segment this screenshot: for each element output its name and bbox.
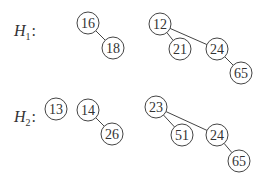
- node-key: 51: [175, 128, 189, 143]
- heap-label: H1:: [13, 22, 36, 42]
- heap-node: 51: [171, 124, 193, 146]
- node-key: 13: [49, 102, 63, 117]
- tree-edge: [225, 57, 233, 65]
- tree-edge: [96, 31, 105, 40]
- heap-node: 24: [206, 38, 228, 60]
- node-key: 14: [81, 103, 95, 118]
- node-key: 65: [234, 66, 248, 81]
- node-key: 21: [173, 42, 187, 57]
- heap-colon: :: [32, 108, 36, 125]
- heap-node: 24: [206, 124, 228, 146]
- heap-node: 18: [102, 37, 124, 59]
- heap-1: H1:161812212465: [13, 12, 252, 84]
- node-key: 16: [81, 16, 95, 31]
- heap-2: H2:13142623512465: [13, 96, 250, 172]
- heap-node: 26: [101, 123, 123, 145]
- node-key: 65: [232, 154, 246, 169]
- tree-edge: [163, 115, 174, 127]
- node-key: 26: [105, 127, 119, 142]
- node-key: 24: [210, 128, 224, 143]
- heap-node: 21: [169, 38, 191, 60]
- binomial-heaps-diagram: H1:161812212465H2:13142623512465: [0, 0, 274, 180]
- node-key: 12: [153, 17, 167, 32]
- node-key: 23: [149, 100, 163, 115]
- node-key: 24: [210, 42, 224, 57]
- heap-node: 14: [77, 99, 99, 121]
- heap-node: 16: [77, 12, 99, 34]
- heap-node: 23: [145, 96, 167, 118]
- heap-subscript: 2: [26, 117, 31, 128]
- heap-colon: :: [32, 22, 36, 39]
- tree-edge: [96, 118, 104, 126]
- heap-node: 13: [45, 98, 67, 120]
- heap-label: H2:: [13, 108, 36, 128]
- node-key: 18: [106, 41, 120, 56]
- heap-subscript: 1: [26, 31, 31, 42]
- tree-edge: [167, 33, 173, 41]
- heap-node: 65: [228, 150, 250, 172]
- tree-edge: [224, 143, 232, 152]
- heap-node: 12: [149, 13, 171, 35]
- heap-node: 65: [230, 62, 252, 84]
